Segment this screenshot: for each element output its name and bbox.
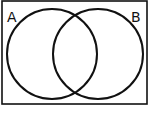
set-a-label: A [7, 9, 17, 25]
venn-diagram: A B [0, 0, 149, 117]
set-b-label: B [131, 9, 141, 25]
